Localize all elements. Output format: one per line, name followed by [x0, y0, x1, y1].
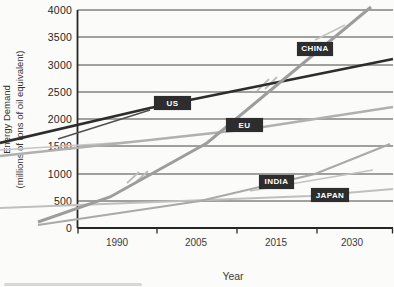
series-label-us: US	[154, 96, 191, 110]
line-india	[38, 144, 390, 225]
series-label-india: INDIA	[259, 175, 294, 189]
series-label-china: CHINA	[297, 42, 333, 56]
series-label-japan: JAPAN	[311, 188, 349, 202]
line-us	[0, 59, 393, 143]
artifact-stroke-us-double	[58, 110, 150, 139]
energy-demand-chart: Energy Demand (millions of tons of oil e…	[0, 0, 394, 287]
series-label-eu: EU	[226, 118, 263, 132]
chart-canvas	[0, 0, 394, 287]
